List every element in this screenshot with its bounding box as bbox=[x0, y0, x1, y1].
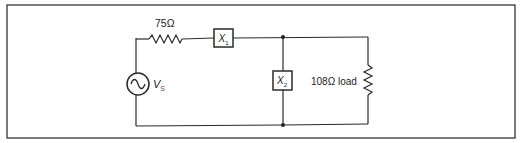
load-label: 108Ω load bbox=[311, 76, 357, 87]
circuit-diagram: 75Ω X1 X2 VS 108Ω load bbox=[0, 0, 522, 143]
x1-label-sub: 1 bbox=[225, 40, 229, 46]
diagram-frame bbox=[7, 5, 515, 138]
wire-bottom bbox=[136, 124, 368, 126]
load-resistor-icon bbox=[364, 65, 372, 95]
source-label-sub: S bbox=[160, 85, 165, 92]
x1-label: X1 bbox=[218, 33, 230, 46]
junction-dot-top bbox=[281, 35, 285, 39]
sine-wave-icon bbox=[131, 80, 145, 89]
wire-top-2 bbox=[182, 38, 214, 39]
source-label: VS bbox=[153, 78, 165, 92]
x2-label: X2 bbox=[276, 75, 288, 88]
resistor-75-icon bbox=[149, 35, 182, 43]
junction-dot-bottom bbox=[281, 123, 285, 127]
resistor-75-label: 75Ω bbox=[155, 17, 175, 29]
wire-top-3 bbox=[233, 37, 368, 38]
x2-label-sub: 2 bbox=[284, 82, 288, 88]
